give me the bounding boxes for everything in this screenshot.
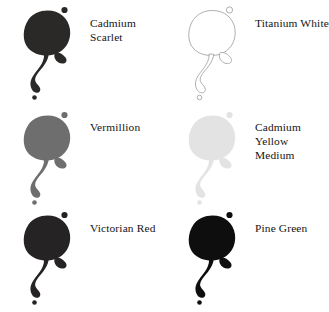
paint-blob-icon [179, 4, 251, 104]
swatch-item-vermillion[interactable]: Vermillion [0, 107, 165, 205]
swatch-label: Cadmium Yellow Medium [255, 120, 329, 162]
color-swatch-chart: Cadmium Scarlet Titanium White [0, 0, 329, 312]
paint-blob-shape-cadmium-scarlet [14, 4, 86, 104]
swatch-label: Victorian Red [90, 221, 155, 235]
swatch-label: Vermillion [90, 120, 140, 134]
swatch-item-victorian-red[interactable]: Victorian Red [0, 205, 165, 312]
paint-blob-icon [14, 109, 86, 209]
paint-blob-icon [179, 109, 251, 209]
swatch-item-cadmium-yellow-medium[interactable]: Cadmium Yellow Medium [165, 107, 329, 205]
paint-blob-shape-titanium-white [179, 4, 251, 104]
swatch-item-cadmium-scarlet[interactable]: Cadmium Scarlet [0, 0, 165, 107]
swatch-label: Pine Green [255, 221, 307, 235]
swatch-item-pine-green[interactable]: Pine Green [165, 205, 329, 312]
paint-blob-shape-vermillion [14, 109, 86, 209]
paint-blob-shape-pine-green [179, 209, 251, 309]
swatch-label: Titanium White [255, 16, 329, 30]
swatch-item-titanium-white[interactable]: Titanium White [165, 0, 329, 107]
paint-blob-icon [14, 209, 86, 309]
paint-blob-shape-victorian-red [14, 209, 86, 309]
swatch-label: Cadmium Scarlet [90, 16, 165, 44]
paint-blob-shape-cadmium-yellow-medium [179, 109, 251, 209]
paint-blob-icon [179, 209, 251, 309]
paint-blob-icon [14, 4, 86, 104]
